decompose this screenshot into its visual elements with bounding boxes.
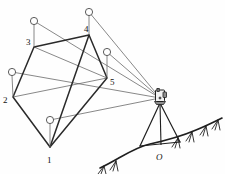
hatch-mark (116, 161, 118, 171)
hatch-mark (192, 132, 194, 142)
point-label-4: 4 (84, 24, 89, 34)
sight-line-to-5 (107, 52, 160, 98)
point-label-1: 1 (47, 155, 52, 165)
telescope-barrel (163, 92, 167, 98)
hatch-group-right (172, 120, 220, 148)
tripod-leg-center (160, 103, 161, 145)
hatch-mark (104, 166, 106, 174)
hatch-mark (218, 120, 220, 130)
hatch-mark (206, 126, 208, 136)
tie-lines-group (13, 35, 107, 147)
terrain-group (98, 118, 222, 174)
instrument-standard (157, 89, 159, 92)
optical-center-point (159, 97, 161, 99)
tripod-leg-right (160, 103, 180, 142)
prism-targets-group (8, 8, 110, 147)
prism-pole-2 (12, 76, 13, 97)
chord-1-4 (50, 35, 89, 147)
survey-network-svg: 1 2 3 4 5 O (0, 0, 225, 174)
point-label-3: 3 (26, 37, 31, 47)
prism-circle-4 (85, 8, 92, 15)
prism-circle-5 (103, 48, 110, 55)
point-label-2: 2 (3, 95, 8, 105)
prism-circle-1 (46, 116, 53, 123)
sight-line-to-3 (34, 21, 160, 98)
tripod-leg-left (140, 103, 160, 146)
prism-circle-2 (8, 68, 15, 75)
prism-station-3 (30, 17, 37, 47)
station-label-O: O (156, 152, 163, 162)
survey-diagram-figure: 1 2 3 4 5 O (0, 0, 225, 174)
sight-line-to-4 (89, 12, 160, 98)
sight-line-to-2 (12, 72, 160, 98)
prism-circle-3 (30, 17, 37, 24)
survey-polygon (13, 35, 107, 147)
point-label-5: 5 (110, 77, 115, 87)
